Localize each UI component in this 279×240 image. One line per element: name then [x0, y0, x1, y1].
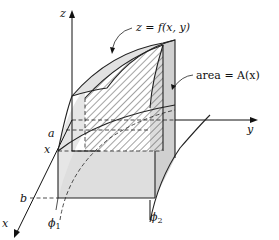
y-axis-label: y: [246, 123, 254, 136]
x-mark-x-label: x: [44, 143, 51, 156]
surface-label: z = f(x, y): [135, 21, 190, 34]
surface-leader: [112, 28, 132, 50]
area-label: area = A(x): [196, 69, 260, 82]
x-axis-arrow-icon: [14, 229, 20, 238]
phi1-tick: [56, 198, 58, 210]
z-axis-arrow-icon: [69, 10, 75, 18]
surface-leader-arrow-icon: [110, 47, 115, 54]
volume-by-slicing-diagram: z y x z = f(x, y) area = A(x) a x b ϕ1 ϕ…: [0, 0, 279, 240]
phi1-label: ϕ1: [48, 217, 61, 231]
x-axis-label: x: [2, 217, 9, 230]
front-face: [58, 151, 155, 198]
z-axis-label: z: [59, 7, 66, 20]
area-leader: [174, 75, 193, 87]
phi2-label: ϕ2: [150, 211, 163, 225]
x-mark-a-label: a: [48, 127, 55, 140]
x-mark-b-label: b: [20, 192, 27, 205]
